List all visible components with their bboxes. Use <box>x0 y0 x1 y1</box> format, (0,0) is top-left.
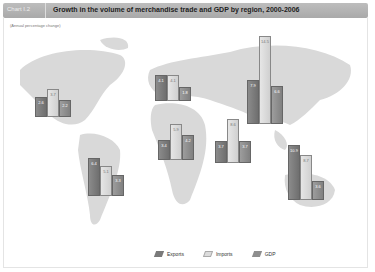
legend-item-exports: Exports <box>155 251 184 257</box>
bar-value-label: 5.9 <box>171 127 181 132</box>
imports-bar: 8.7 <box>300 155 312 200</box>
bar-value-label: 3.6 <box>313 184 323 189</box>
gdp-bar: 2.2 <box>59 100 71 117</box>
exports-swatch-icon <box>154 251 164 257</box>
legend-label: Exports <box>167 251 184 257</box>
bar-value-label: 3.7 <box>240 144 250 149</box>
bar-value-label: 2.6 <box>36 100 46 105</box>
bar-value-label: 3.4 <box>159 143 169 148</box>
exports-bar: 6.4 <box>88 158 100 196</box>
bar-value-label: 6.4 <box>89 161 99 166</box>
legend-item-gdp: GDP <box>253 251 276 257</box>
imports-bar: 14.5 <box>259 36 271 124</box>
bar-value-label: 1.8 <box>180 90 190 95</box>
bar-value-label: 4.2 <box>183 138 193 143</box>
legend-item-imports: Imports <box>204 251 233 257</box>
imports-bar: 5.1 <box>100 166 112 196</box>
imports-swatch-icon <box>203 251 213 257</box>
exports-bar: 3.7 <box>215 141 227 163</box>
exports-bar: 2.6 <box>35 97 47 117</box>
bar-value-label: 2.2 <box>60 103 70 108</box>
imports-bar: 5.9 <box>170 124 182 160</box>
imports-bar: 4.1 <box>167 75 179 101</box>
bar-value-label: 6.6 <box>272 89 282 94</box>
bar-value-label: 3.7 <box>216 144 226 149</box>
gdp-bar: 4.2 <box>182 135 194 160</box>
gdp-bar: 3.3 <box>112 175 124 196</box>
bar-value-label: 7.9 <box>248 83 258 88</box>
bar-value-label: 4.1 <box>156 78 166 83</box>
legend-label: GDP <box>265 251 276 257</box>
gdp-bar: 1.8 <box>179 87 191 101</box>
bar-value-label: 5.1 <box>101 169 111 174</box>
exports-bar: 10.9 <box>288 145 300 200</box>
legend-label: Imports <box>216 251 233 257</box>
bar-value-label: 3.3 <box>113 178 123 183</box>
exports-bar: 4.1 <box>155 75 167 101</box>
bar-value-label: 8.7 <box>301 158 311 163</box>
bar-value-label: 3.7 <box>48 92 58 97</box>
exports-bar: 7.9 <box>247 80 259 124</box>
chart-legend: Exports Imports GDP <box>155 251 275 257</box>
bar-value-label: 4.1 <box>168 78 178 83</box>
exports-bar: 3.4 <box>158 140 170 160</box>
bar-value-label: 10.9 <box>289 148 299 153</box>
bar-value-label: 8.6 <box>228 122 238 127</box>
gdp-swatch-icon <box>252 251 262 257</box>
imports-bar: 3.7 <box>47 89 59 117</box>
gdp-bar: 3.7 <box>239 141 251 163</box>
bar-value-label: 14.5 <box>260 39 270 44</box>
gdp-bar: 6.6 <box>271 86 283 124</box>
gdp-bar: 3.6 <box>312 181 324 200</box>
imports-bar: 8.6 <box>227 119 239 163</box>
